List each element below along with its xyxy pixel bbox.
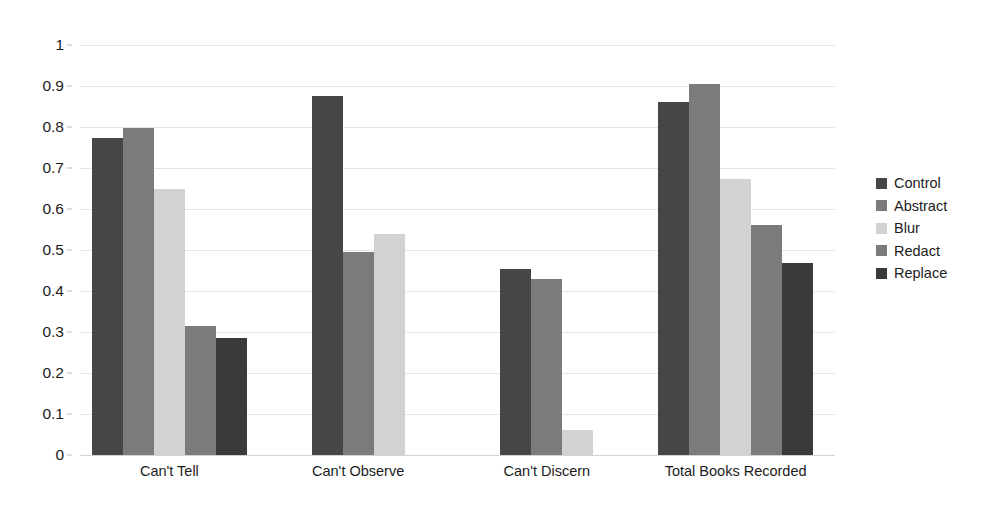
y-tick-mark [67, 45, 72, 46]
x-tick-label: Can't Discern [504, 464, 591, 479]
bar-group [500, 45, 593, 455]
legend-swatch-icon [876, 200, 887, 211]
y-tick-mark [67, 86, 72, 87]
y-tick-mark [67, 209, 72, 210]
y-tick-label: 1 [55, 37, 64, 53]
bar-group [92, 45, 247, 455]
bar [154, 189, 185, 455]
legend-item-control[interactable]: Control [876, 172, 986, 195]
bar [720, 179, 751, 455]
bar-group [658, 45, 813, 455]
legend-item-blur[interactable]: Blur [876, 217, 986, 240]
y-axis: 10.90.80.70.60.50.40.30.20.10 [0, 45, 72, 455]
y-tick-label: 0.8 [42, 119, 64, 135]
bar [374, 234, 405, 455]
y-tick-label: 0.5 [42, 242, 64, 258]
legend-swatch-icon [876, 245, 887, 256]
y-tick-mark [67, 291, 72, 292]
legend-swatch-icon [876, 223, 887, 234]
legend-swatch-icon [876, 178, 887, 189]
y-tick-mark [67, 455, 72, 456]
bar [312, 96, 343, 455]
bar [343, 252, 374, 455]
y-tick-label: 0.4 [42, 283, 64, 299]
y-tick-label: 0.6 [42, 201, 64, 217]
bar [751, 225, 782, 455]
bar [123, 128, 154, 455]
y-tick-label: 0.9 [42, 78, 64, 94]
bar-chart: 10.90.80.70.60.50.40.30.20.10 Can't Tell… [0, 0, 990, 510]
y-tick-mark [67, 127, 72, 128]
y-tick-mark [67, 168, 72, 169]
legend-item-redact[interactable]: Redact [876, 240, 986, 263]
legend-label: Control [894, 176, 941, 191]
chart-legend: ControlAbstractBlurRedactReplace [876, 172, 986, 285]
legend-swatch-icon [876, 268, 887, 279]
x-tick-label: Can't Observe [312, 464, 404, 479]
plot-area [80, 45, 835, 455]
y-tick-label: 0.3 [42, 324, 64, 340]
bar [782, 263, 813, 455]
y-tick-label: 0 [55, 447, 64, 463]
x-axis: Can't TellCan't ObserveCan't DiscernTota… [80, 458, 835, 488]
legend-item-abstract[interactable]: Abstract [876, 195, 986, 218]
legend-label: Replace [894, 266, 947, 281]
x-tick-label: Can't Tell [140, 464, 199, 479]
y-tick-mark [67, 332, 72, 333]
bar-group [312, 45, 405, 455]
bar [689, 84, 720, 455]
y-tick-label: 0.2 [42, 365, 64, 381]
bar [531, 279, 562, 455]
y-tick-mark [67, 250, 72, 251]
legend-label: Abstract [894, 199, 947, 214]
y-tick-mark [67, 414, 72, 415]
bar [92, 138, 123, 455]
y-tick-label: 0.7 [42, 160, 64, 176]
y-tick-label: 0.1 [42, 406, 64, 422]
bar [500, 269, 531, 455]
y-tick-mark [67, 373, 72, 374]
gridline-0 [80, 455, 835, 456]
legend-item-replace[interactable]: Replace [876, 262, 986, 285]
bar [216, 338, 247, 455]
bar [185, 326, 216, 455]
bar [658, 102, 689, 455]
x-tick-label: Total Books Recorded [665, 464, 807, 479]
legend-label: Redact [894, 244, 940, 259]
bar [562, 430, 593, 455]
legend-label: Blur [894, 221, 920, 236]
